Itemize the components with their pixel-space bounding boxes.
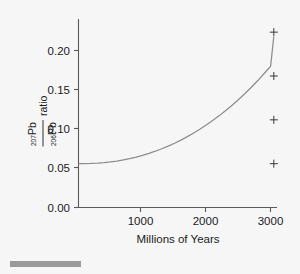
x-axis-title: Millions of Years <box>136 233 219 245</box>
y-tick-label: 0.15 <box>48 84 70 96</box>
lead-isotope-ratio-chart: 0.20 0.15 0.10 0.05 0.00 1000 2000 3000 … <box>0 0 300 274</box>
x-axis-tick-labels: 1000 2000 3000 <box>128 215 284 227</box>
y-axis-title-denominator-element: Pb <box>46 122 58 135</box>
x-tick-label: 1000 <box>128 215 154 227</box>
x-tick-label: 3000 <box>258 215 284 227</box>
y-axis-title-suffix: ratio <box>37 95 49 116</box>
y-tick-label: 0.20 <box>48 45 70 57</box>
y-axis-title-denominator-superscript: 206 <box>50 135 57 146</box>
y-axis-title-numerator-element: Pb <box>26 122 38 135</box>
bottom-gray-bar <box>10 261 81 267</box>
y-tick-label: 0.00 <box>48 202 70 214</box>
y-axis-title-numerator-superscript: 207 <box>30 135 37 146</box>
y-tick-label: 0.05 <box>48 162 70 174</box>
chart-figure: 0.20 0.15 0.10 0.05 0.00 1000 2000 3000 … <box>0 0 300 274</box>
x-tick-label: 2000 <box>193 215 219 227</box>
